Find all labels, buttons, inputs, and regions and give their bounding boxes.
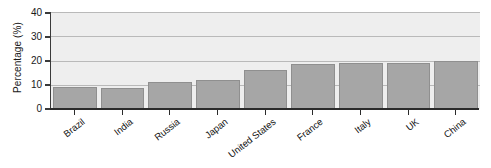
bar-chart-figure: Percentage (%) 40 30 20 10 0 BrazilIndia…	[0, 0, 491, 168]
bar-japan	[196, 80, 239, 109]
bar-russia	[148, 82, 191, 109]
gridline-30	[51, 36, 480, 37]
y-tick-label-30: 30	[20, 32, 42, 42]
plot-area	[50, 12, 480, 109]
x-tick-mark-japan	[217, 110, 218, 115]
bar-united-states	[244, 70, 287, 109]
bar-india	[101, 88, 144, 109]
x-tick-mark-uk	[408, 110, 409, 115]
x-tick-mark-india	[122, 110, 123, 115]
x-tick-mark-brazil	[74, 110, 75, 115]
y-tick-label-40: 40	[20, 8, 42, 18]
y-tick-label-10: 10	[20, 80, 42, 90]
bar-china	[434, 61, 477, 110]
y-tick-label-20: 20	[20, 56, 42, 66]
bar-france	[291, 64, 334, 109]
x-tick-mark-italy	[360, 110, 361, 115]
plot-inner	[51, 12, 480, 109]
bar-uk	[387, 63, 430, 109]
x-tick-mark-france	[312, 110, 313, 115]
gridline-40	[51, 12, 480, 13]
gridline-20	[51, 61, 480, 62]
y-tick-label-0: 0	[20, 104, 42, 114]
bar-brazil	[53, 87, 96, 109]
x-tick-mark-russia	[169, 110, 170, 115]
x-tick-mark-china	[455, 110, 456, 115]
x-tick-mark-united-states	[265, 110, 266, 115]
bar-italy	[339, 63, 382, 109]
